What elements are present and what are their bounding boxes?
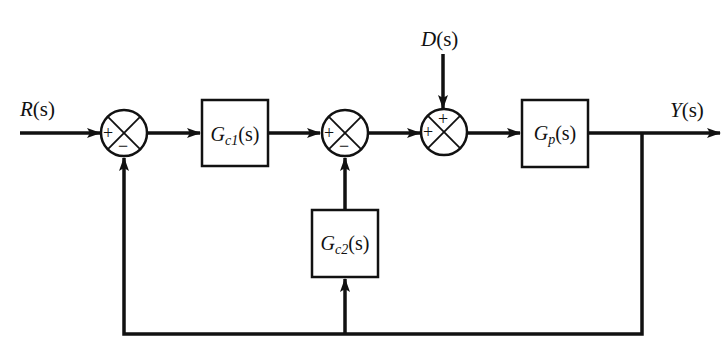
- sum3-plus-sign-top: +: [438, 109, 448, 129]
- sum3-plus-sign-left: +: [423, 122, 433, 142]
- output-label-y: Y(s): [670, 98, 704, 122]
- sum2-minus-sign: −: [339, 136, 349, 156]
- block-diagram: + − + − + + Gc1(s) Gp(s) Gc2(s) R(s) D(s…: [0, 0, 724, 357]
- sum1-plus-sign: +: [103, 123, 113, 143]
- sum2-plus-sign: +: [324, 123, 334, 143]
- disturbance-label-d: D(s): [420, 27, 458, 51]
- block-gp-label: Gp(s): [534, 122, 577, 147]
- input-label-r: R(s): [19, 97, 55, 121]
- sum1-minus-sign: −: [118, 136, 128, 156]
